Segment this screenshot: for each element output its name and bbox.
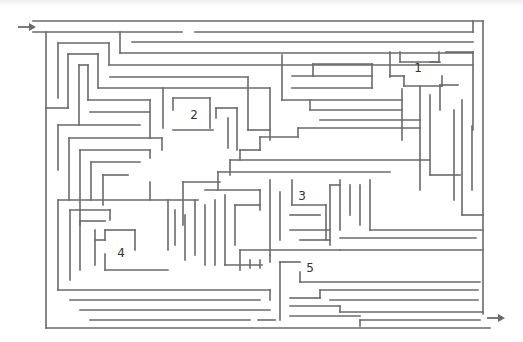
label-4: 4 [117, 246, 125, 260]
label-2: 2 [190, 108, 198, 122]
label-5: 5 [306, 261, 314, 275]
maze-canvas [0, 0, 523, 342]
entrance-arrow [18, 23, 36, 31]
label-1: 1 [414, 61, 422, 75]
label-3: 3 [298, 189, 306, 203]
exit-arrow [487, 314, 505, 322]
